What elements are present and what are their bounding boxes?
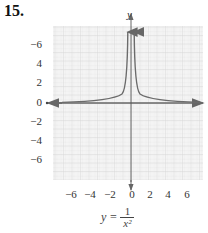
equation-lhs: y = <box>101 210 117 225</box>
x-tick: −4 <box>83 188 97 200</box>
equation-denominator: x² <box>123 218 131 229</box>
equation-numerator: 1 <box>125 206 131 217</box>
equation-label: y = 1 x² <box>101 206 134 229</box>
y-tick: 0 <box>22 96 42 108</box>
y-axis-label: y <box>127 8 132 20</box>
y-tick: 2 <box>22 76 42 88</box>
x-tick: 6 <box>180 188 194 200</box>
y-tick: −6 <box>22 38 42 50</box>
x-tick: 2 <box>143 188 157 200</box>
y-tick: −4 <box>22 134 42 146</box>
y-tick: 4 <box>22 57 42 69</box>
x-tick: 4 <box>161 188 175 200</box>
y-tick: −6 <box>22 153 42 165</box>
x-tick: 0 <box>125 188 139 200</box>
x-tick: −2 <box>103 188 117 200</box>
x-tick: −6 <box>64 188 78 200</box>
equation-fraction: 1 x² <box>120 206 134 229</box>
y-tick: −2 <box>22 115 42 127</box>
